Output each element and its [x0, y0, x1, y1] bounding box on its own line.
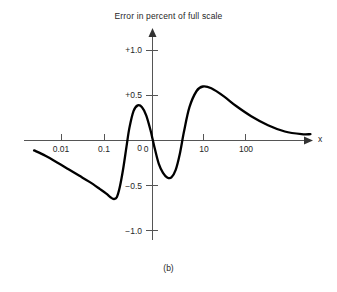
chart-plot-area: [0, 0, 337, 292]
x-tick-label-10: 10: [199, 144, 208, 154]
y-tick-label-plus1.0: +1.0: [104, 45, 142, 55]
error-curve-path: [34, 86, 310, 199]
x-tick-label-0.01: 0.01: [53, 144, 70, 154]
y-tick-label-plus0.5: +0.5: [104, 90, 142, 100]
y-tick-label-minus1.0: −1.0: [104, 226, 142, 236]
x-tick-label-100: 100: [239, 144, 253, 154]
figure-b: Error in percent of full scale 0: [0, 0, 337, 292]
figure-caption: (b): [0, 263, 337, 273]
error-curve-svg: [0, 0, 337, 292]
y-tick-label-minus0.5: −0.5: [104, 181, 142, 191]
y-tick-label-zero: 0: [104, 143, 142, 153]
x-axis-arrow-icon: [304, 137, 313, 145]
y-axis-arrow-icon: [149, 28, 157, 37]
x-tick-label-0: 0: [144, 144, 149, 154]
x-axis-label: x: [318, 134, 322, 144]
